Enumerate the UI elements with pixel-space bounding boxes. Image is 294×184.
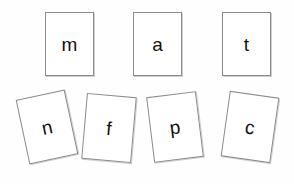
- card-letter: t: [244, 35, 249, 54]
- letter-cards-scene: m a t n f p c: [0, 0, 294, 184]
- letter-card-a[interactable]: a: [133, 12, 182, 76]
- letter-card-n[interactable]: n: [16, 90, 79, 165]
- letter-card-f[interactable]: f: [81, 93, 137, 163]
- card-letter: f: [106, 118, 113, 137]
- letter-card-p[interactable]: p: [146, 91, 204, 163]
- card-letter: p: [169, 117, 182, 137]
- card-letter: m: [62, 35, 78, 54]
- card-letter: n: [40, 117, 54, 138]
- letter-card-m[interactable]: m: [45, 12, 94, 76]
- letter-card-c[interactable]: c: [221, 91, 280, 163]
- card-letter: c: [244, 117, 256, 137]
- card-letter: a: [152, 35, 163, 54]
- letter-card-t[interactable]: t: [222, 12, 271, 76]
